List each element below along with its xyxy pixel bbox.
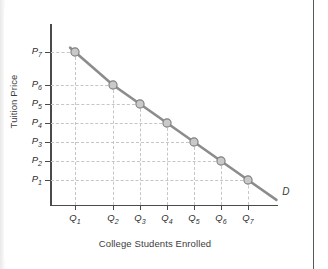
page-margin-right xyxy=(314,0,328,269)
data-point-marker xyxy=(136,100,144,108)
data-point-marker xyxy=(109,81,117,89)
data-point-marker xyxy=(244,176,252,184)
data-point-marker xyxy=(163,119,171,127)
demand-curve-label: D xyxy=(282,186,289,197)
data-point-marker xyxy=(71,48,79,56)
page-border-line xyxy=(313,0,314,269)
data-point-marker xyxy=(217,157,225,165)
demand-curve-plot xyxy=(0,0,313,269)
data-point-marker xyxy=(190,138,198,146)
demand-curve-chart: Tuition Price College Students Enrolled … xyxy=(0,0,313,269)
